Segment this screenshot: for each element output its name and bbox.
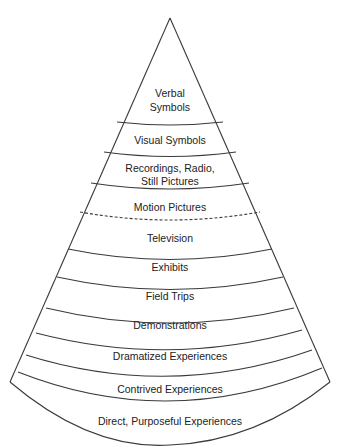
level-label-visual-symbols: Visual Symbols <box>134 134 206 146</box>
level-label-exhibits: Exhibits <box>152 261 189 273</box>
level-label-field-trips: Field Trips <box>146 290 194 302</box>
boundary-visual-recordings <box>104 152 236 157</box>
boundary-demonstrations-dramatized <box>36 330 302 350</box>
level-label-demonstrations: Demonstrations <box>133 319 207 331</box>
level-label-recordings-line2: Still Pictures <box>141 175 199 187</box>
level-label-contrived-experiences: Contrived Experiences <box>117 383 223 395</box>
level-label-verbal-symbols-line1: Verbal <box>155 87 185 99</box>
boundary-exhibits-fieldtrips <box>57 277 283 290</box>
level-label-direct-purposeful-experiences: Direct, Purposeful Experiences <box>98 415 242 427</box>
level-label-recordings-line1: Recordings, Radio, <box>125 162 214 174</box>
level-label-motion-pictures: Motion Pictures <box>134 201 206 213</box>
boundary-motion-television <box>80 212 260 220</box>
boundary-verbal-visual <box>117 122 223 125</box>
boundary-television-exhibits <box>68 249 272 260</box>
level-label-dramatized-experiences: Dramatized Experiences <box>113 350 227 362</box>
cone-of-experience-diagram: Verbal Symbols Visual Symbols Recordings… <box>0 0 338 448</box>
level-label-television: Television <box>147 232 193 244</box>
level-label-verbal-symbols-line2: Symbols <box>150 101 190 113</box>
